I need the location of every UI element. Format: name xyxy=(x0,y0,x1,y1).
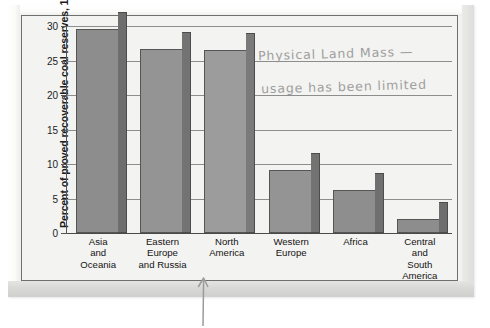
y-tick-label-30: 30 xyxy=(47,21,58,32)
category-label-2: NorthAmerica xyxy=(195,236,259,259)
category-label-line: Oceania xyxy=(66,259,130,270)
y-tick-label-0: 0 xyxy=(52,228,58,239)
category-label-line: Europe xyxy=(130,247,194,258)
bar-top-1 xyxy=(182,32,191,41)
bar-front-5 xyxy=(397,219,439,233)
y-tick-label-5: 5 xyxy=(52,193,58,204)
category-label-1: EasternEuropeand Russia xyxy=(130,236,194,270)
category-label-0: AsiaandOceania xyxy=(66,236,130,270)
y-tick-label-20: 20 xyxy=(47,90,58,101)
category-label-3: WesternEurope xyxy=(259,236,323,259)
y-tick-0 xyxy=(61,233,67,234)
bar-side-5 xyxy=(439,210,448,233)
bar-top-3 xyxy=(311,153,320,162)
bar-side-1 xyxy=(182,40,191,233)
category-label-line: Africa xyxy=(323,236,387,247)
category-label-line: and xyxy=(66,247,130,258)
category-label-line: South xyxy=(388,259,452,270)
bar-top-4 xyxy=(375,173,384,182)
category-label-5: CentralandSouthAmerica xyxy=(388,236,452,282)
bar-front-0 xyxy=(76,29,118,233)
bar-top-0 xyxy=(118,12,127,21)
bar-5 xyxy=(397,210,448,233)
category-label-line: Central xyxy=(388,236,452,247)
category-label-line: Asia xyxy=(66,236,130,247)
bar-side-3 xyxy=(311,161,320,233)
bar-top-5 xyxy=(439,202,448,211)
bar-side-2 xyxy=(246,41,255,233)
category-label-line: America xyxy=(388,270,452,281)
bar-3 xyxy=(269,161,320,233)
category-label-line: America xyxy=(195,247,259,258)
bar-0 xyxy=(76,20,127,233)
category-label-line: Western xyxy=(259,236,323,247)
screenshot-root: Percent of proved recoverable coal reser… xyxy=(0,0,490,328)
bar-front-4 xyxy=(333,190,375,233)
paper-edge-left xyxy=(8,5,20,297)
x-axis-category-labels: AsiaandOceaniaEasternEuropeand RussiaNor… xyxy=(66,236,452,280)
bar-front-3 xyxy=(269,170,311,233)
bar-top-2 xyxy=(246,33,255,42)
bar-2 xyxy=(204,41,255,233)
bar-1 xyxy=(140,40,191,233)
y-tick-label-25: 25 xyxy=(47,55,58,66)
bar-side-4 xyxy=(375,181,384,233)
category-label-line: North xyxy=(195,236,259,247)
paper-edge-bottom xyxy=(8,281,474,297)
bar-front-1 xyxy=(140,49,182,233)
category-label-line: and xyxy=(388,247,452,258)
gridline-0 xyxy=(67,233,452,234)
bar-front-2 xyxy=(204,50,246,233)
up-arrow-icon xyxy=(196,268,210,326)
paper-edge-right xyxy=(462,5,474,297)
bar-4 xyxy=(333,181,384,233)
category-label-line: Europe xyxy=(259,247,323,258)
category-label-line: Eastern xyxy=(130,236,194,247)
y-tick-label-10: 10 xyxy=(47,159,58,170)
bar-side-0 xyxy=(118,20,127,233)
category-label-line: and Russia xyxy=(130,259,194,270)
y-tick-label-15: 15 xyxy=(47,124,58,135)
category-label-4: Africa xyxy=(323,236,387,247)
